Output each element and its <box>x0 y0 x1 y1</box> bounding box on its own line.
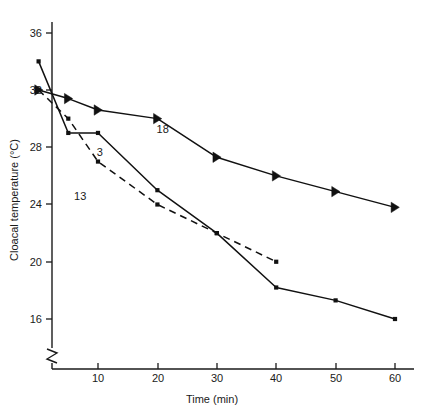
y-tick-label-36: 36 <box>30 27 42 39</box>
chart-canvas: 36 32 28 24 20 16 10 20 30 40 50 60 Time… <box>0 0 421 412</box>
series-label-3: 3 <box>97 146 103 158</box>
data-point-marker <box>334 298 338 302</box>
x-tick-label-40: 40 <box>270 372 282 384</box>
data-point-marker <box>155 202 159 206</box>
data-point-marker <box>155 188 159 192</box>
series-label-13: 13 <box>74 190 86 202</box>
data-point-marker <box>66 117 70 121</box>
y-tick-label-20: 20 <box>30 256 42 268</box>
data-point-marker <box>37 88 41 92</box>
data-point-marker <box>274 285 278 289</box>
data-point-marker <box>96 159 100 163</box>
data-point-marker <box>37 59 41 63</box>
chart-background <box>0 0 421 412</box>
data-point-marker <box>274 260 278 264</box>
x-tick-label-10: 10 <box>92 372 104 384</box>
y-tick-label-24: 24 <box>30 198 42 210</box>
y-tick-label-28: 28 <box>30 141 42 153</box>
data-point-marker <box>393 317 397 321</box>
series-label-18: 18 <box>157 123 169 135</box>
x-tick-label-20: 20 <box>152 372 164 384</box>
cloacal-temperature-chart: 36 32 28 24 20 16 10 20 30 40 50 60 Time… <box>0 0 421 412</box>
x-tick-label-50: 50 <box>330 372 342 384</box>
data-point-marker <box>215 231 219 235</box>
data-point-marker <box>96 131 100 135</box>
y-axis-title: Cloacal temperature (°C) <box>8 139 20 261</box>
x-axis-title: Time (min) <box>186 393 238 405</box>
data-point-marker <box>66 131 70 135</box>
y-tick-label-16: 16 <box>30 313 42 325</box>
x-tick-label-30: 30 <box>211 372 223 384</box>
x-tick-label-60: 60 <box>389 372 401 384</box>
